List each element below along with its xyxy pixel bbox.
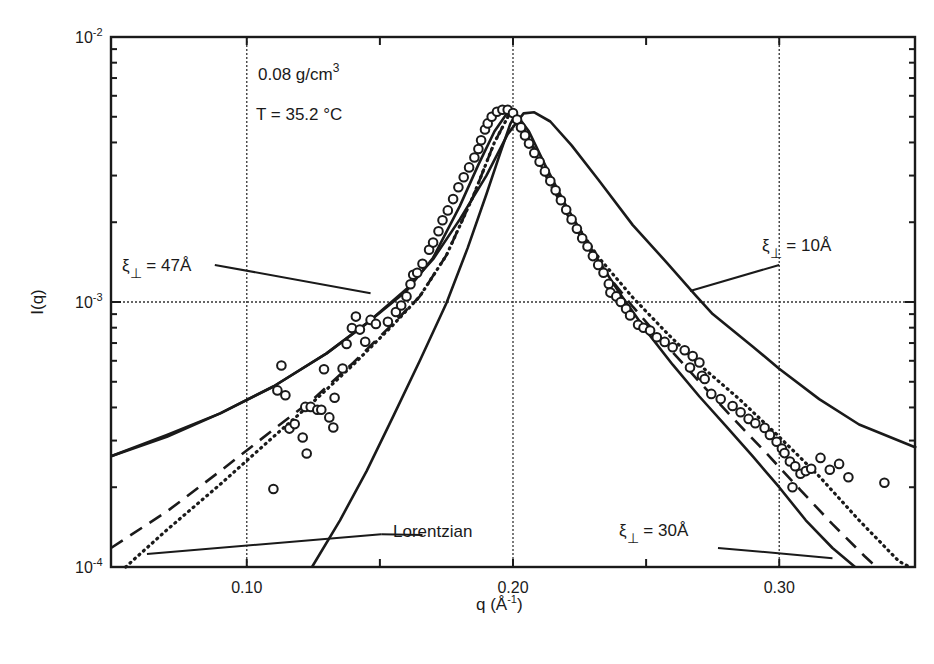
data-point	[605, 280, 614, 289]
lorentzian-label: Lorentzian	[393, 522, 472, 541]
xi10-label: ξ⊥ = 10Å	[762, 236, 832, 261]
data-point	[474, 145, 483, 154]
lorentzian-pointer-a	[147, 534, 381, 554]
data-point	[660, 338, 669, 347]
xi47-label: ξ⊥ = 47Å	[122, 256, 192, 281]
data-point	[302, 449, 311, 458]
data-point	[449, 195, 458, 204]
data-point	[567, 215, 576, 224]
data-point	[541, 167, 550, 176]
data-point	[530, 149, 539, 158]
chart: 0.100.200.30 10-210-310-4 q (Å-1) I(q) 0…	[0, 0, 934, 664]
data-point	[844, 473, 853, 482]
data-point	[330, 394, 339, 403]
y-axis-label: I(q)	[28, 289, 47, 315]
data-point	[826, 465, 835, 474]
data-points	[269, 106, 889, 494]
data-point	[707, 390, 716, 399]
data-point	[320, 365, 329, 374]
data-point	[342, 340, 351, 349]
data-point	[290, 420, 299, 429]
data-point	[700, 375, 709, 384]
x-tick-label: 0.30	[764, 579, 795, 596]
data-point	[594, 261, 603, 270]
data-point	[551, 186, 560, 195]
data-point	[269, 485, 278, 494]
data-point	[418, 259, 427, 268]
data-point	[465, 163, 474, 172]
data-point	[578, 234, 587, 243]
xi30-label: ξ⊥ = 30Å	[619, 521, 689, 546]
data-point	[470, 153, 479, 162]
data-point	[680, 346, 689, 355]
data-point	[298, 433, 307, 442]
data-point	[384, 317, 393, 326]
data-point	[429, 238, 438, 247]
data-point	[477, 136, 486, 145]
solid-fit-curve	[111, 112, 916, 456]
y-tick-labels: 10-210-310-4	[75, 26, 103, 576]
data-point	[716, 395, 725, 404]
data-point	[434, 227, 443, 236]
data-point	[525, 139, 534, 148]
y-tick-label: 10-4	[75, 556, 103, 576]
data-point	[325, 413, 334, 422]
data-point	[583, 242, 592, 251]
y-tick-label: 10-3	[75, 291, 103, 311]
data-point	[438, 216, 447, 225]
data-point	[589, 252, 598, 261]
data-point	[599, 268, 608, 277]
data-point	[816, 454, 825, 463]
xi10-pointer	[690, 265, 779, 291]
data-point	[780, 449, 789, 458]
annotation-pointers	[147, 265, 833, 558]
data-point	[352, 312, 361, 321]
data-point	[835, 460, 844, 469]
data-point	[728, 402, 737, 411]
data-point	[546, 177, 555, 186]
data-point	[557, 196, 566, 205]
data-point	[413, 268, 422, 277]
x-tick-label: 0.10	[231, 579, 262, 596]
data-point	[454, 183, 463, 192]
data-point	[397, 301, 406, 310]
data-point	[273, 386, 282, 395]
data-point	[751, 419, 760, 428]
dashed-fit-curve	[111, 112, 876, 567]
data-point	[535, 158, 544, 167]
data-point	[444, 206, 453, 215]
data-point	[668, 343, 677, 352]
data-point	[880, 478, 889, 487]
data-point	[329, 423, 338, 432]
data-point	[807, 464, 816, 473]
data-point	[695, 358, 704, 367]
data-point	[372, 320, 381, 329]
data-point	[402, 292, 411, 301]
data-point	[562, 205, 571, 214]
data-point	[736, 408, 745, 417]
data-point	[356, 325, 365, 334]
data-point	[626, 311, 635, 320]
data-point	[459, 173, 468, 182]
data-point	[281, 391, 290, 400]
dotted-fit-curve	[126, 112, 910, 567]
xi30-pointer	[718, 548, 832, 558]
xi47-pointer	[215, 265, 371, 293]
data-point	[788, 483, 797, 492]
density-annotation: 0.08 g/cm3	[258, 61, 340, 84]
model-curves	[111, 112, 916, 567]
data-point	[406, 280, 415, 289]
y-tick-label: 10-2	[75, 26, 103, 46]
data-point	[277, 361, 286, 370]
temperature-annotation: T = 35.2 °C	[256, 105, 342, 124]
data-point	[361, 337, 370, 346]
data-point	[338, 364, 347, 373]
data-point	[686, 363, 695, 372]
data-point	[573, 224, 582, 233]
data-point	[317, 406, 326, 415]
x-axis-label: q (Å-1)	[476, 593, 523, 614]
